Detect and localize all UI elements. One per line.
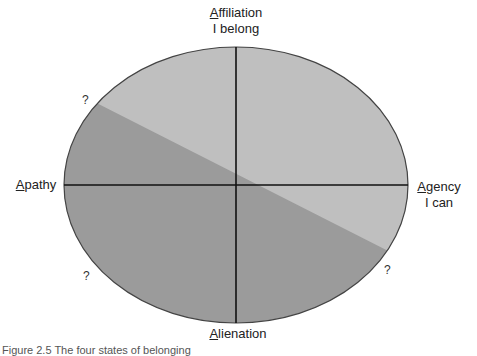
agency-text: gency bbox=[426, 179, 461, 194]
figure-caption: Figure 2.5 The four states of belonging bbox=[2, 344, 191, 356]
alienation-initial: A bbox=[209, 326, 218, 341]
question-mark-lower-left: ? bbox=[83, 269, 90, 283]
agency-initial: A bbox=[417, 179, 426, 194]
apathy-text: pathy bbox=[24, 177, 56, 192]
alienation-text: lienation bbox=[218, 326, 266, 341]
question-mark-lower-right: ? bbox=[384, 263, 391, 277]
label-alienation: Alienation bbox=[198, 326, 278, 342]
agency-subtitle: I can bbox=[414, 195, 464, 211]
affiliation-subtitle: I belong bbox=[196, 21, 276, 37]
question-mark-upper-left: ? bbox=[82, 93, 89, 107]
label-affiliation: Affiliation I belong bbox=[196, 5, 276, 37]
label-agency: Agency I can bbox=[414, 179, 464, 211]
label-apathy: Apathy bbox=[12, 177, 60, 193]
affiliation-text: ffiliation bbox=[218, 5, 262, 20]
